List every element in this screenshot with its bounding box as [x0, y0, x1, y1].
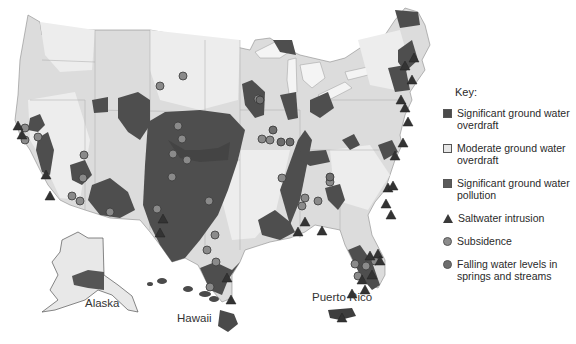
- circle-icon: [443, 237, 452, 246]
- saltwater-marker-icon: [381, 199, 391, 208]
- subsidence-marker-icon: [106, 208, 114, 216]
- subsidence-marker-icon: [168, 173, 176, 181]
- subsidence-marker-icon: [258, 135, 266, 143]
- falling-water-marker-icon: [277, 138, 285, 146]
- subsidence-marker-icon: [179, 72, 187, 80]
- legend-label: Significant ground water overdraft: [457, 107, 576, 131]
- subsidence-marker-icon: [203, 246, 211, 254]
- circle-icon: [443, 260, 452, 269]
- subsidence-marker-icon: [80, 151, 88, 159]
- subsidence-marker-icon: [362, 262, 370, 270]
- subsidence-marker-icon: [211, 231, 219, 239]
- subsidence-marker-icon: [34, 133, 42, 141]
- legend-item-significant-pollution: Significant ground water pollution: [443, 177, 576, 201]
- subsidence-marker-icon: [79, 174, 87, 182]
- legend-label: Subsidence: [457, 235, 512, 247]
- legend-label: Significant ground water pollution: [457, 177, 576, 201]
- alaska-label: Alaska: [85, 297, 120, 309]
- subsidence-marker-icon: [174, 122, 182, 130]
- hawaii-label: Hawaii: [177, 312, 212, 324]
- subsidence-marker-icon: [301, 194, 309, 202]
- legend-label: Falling water levels in springs and stre…: [457, 258, 576, 282]
- map-legend: Key: Significant ground water overdraftM…: [443, 86, 576, 293]
- subsidence-marker-icon: [169, 150, 177, 158]
- subsidence-marker-icon: [178, 135, 186, 143]
- legend-item-significant-overdraft: Significant ground water overdraft: [443, 107, 576, 131]
- subsidence-marker-icon: [206, 283, 214, 291]
- saltwater-marker-icon: [386, 210, 396, 219]
- subsidence-marker-icon: [76, 197, 84, 205]
- legend-item-saltwater-intrusion: Saltwater intrusion: [443, 212, 576, 224]
- square-swatch-icon: [443, 109, 452, 118]
- subsidence-marker-icon: [68, 192, 76, 200]
- subsidence-marker-icon: [183, 156, 191, 164]
- subsidence-marker-icon: [266, 136, 274, 144]
- subsidence-marker-icon: [205, 197, 213, 205]
- legend-title: Key:: [455, 86, 576, 98]
- subsidence-marker-icon: [314, 197, 322, 205]
- legend-item-moderate-overdraft: Moderate ground water overdraft: [443, 142, 576, 166]
- subsidence-marker-icon: [153, 205, 161, 213]
- square-swatch-icon: [443, 179, 452, 188]
- legend-label: Saltwater intrusion: [458, 212, 544, 224]
- falling-water-marker-icon: [256, 96, 264, 104]
- subsidence-marker-icon: [278, 174, 286, 182]
- subsidence-marker-icon: [298, 202, 306, 210]
- subsidence-marker-icon: [156, 82, 164, 90]
- falling-water-marker-icon: [326, 173, 334, 181]
- falling-water-marker-icon: [269, 126, 277, 134]
- puerto-rico-label: Puerto Rico: [312, 291, 372, 303]
- legend-label: Moderate ground water overdraft: [457, 142, 576, 166]
- triangle-icon: [443, 214, 453, 223]
- falling-water-marker-icon: [286, 138, 294, 146]
- legend-item-falling-water: Falling water levels in springs and stre…: [443, 258, 576, 282]
- legend-item-subsidence: Subsidence: [443, 235, 576, 247]
- saltwater-marker-icon: [403, 117, 413, 126]
- subsidence-marker-icon: [351, 260, 359, 268]
- subsidence-marker-icon: [212, 258, 220, 266]
- square-swatch-icon: [443, 144, 452, 153]
